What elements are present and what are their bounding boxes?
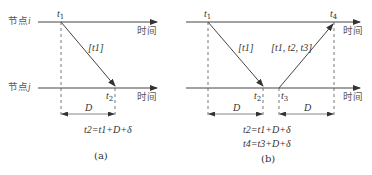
t4-label-b: t4	[330, 9, 337, 21]
node-i-label: 节点i	[8, 16, 31, 27]
timing-diagram-lines	[0, 0, 372, 175]
time-axis-label-top-a: 时间	[137, 26, 157, 36]
delay-D-label-a: D	[85, 103, 92, 113]
time-axis-label-bottom-a: 时间	[137, 92, 157, 102]
equation1-b: t2=t1+D+δ	[243, 125, 291, 135]
t1-label-a: t1	[57, 9, 64, 21]
equation2-b: t4=t3+D+δ	[243, 139, 291, 149]
diagram-b	[186, 22, 360, 118]
t1-label-b: t1	[204, 9, 211, 21]
t2-label-b: t2	[254, 91, 261, 103]
node-j-label: 节点j	[8, 82, 31, 93]
diagram-a	[38, 22, 157, 118]
t3-label-b: t3	[281, 91, 288, 103]
delay-D1-label-b: D	[233, 103, 240, 113]
caption-a: (a)	[94, 151, 108, 161]
message-label-a: [t1]	[88, 43, 104, 53]
time-axis-label-bottom-b: 时间	[343, 92, 363, 102]
message1-label-b: [t1]	[238, 43, 254, 53]
time-axis-label-top-b: 时间	[343, 26, 363, 36]
t2-label-a: t2	[106, 91, 113, 103]
equation-a: t2=t1+D+δ	[84, 125, 132, 135]
delay-D2-label-b: D	[304, 103, 311, 113]
caption-b: (b)	[261, 154, 275, 164]
message2-label-b: [t1, t2, t3]	[271, 43, 312, 53]
